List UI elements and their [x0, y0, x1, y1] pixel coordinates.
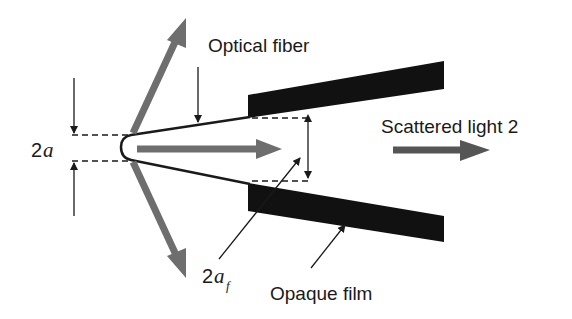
opaque-film-upper	[248, 61, 444, 118]
svg-text:2: 2	[31, 139, 42, 161]
opaque-film-lower	[248, 183, 444, 242]
leader-opaque-film	[311, 225, 345, 268]
svg-text:a: a	[214, 264, 225, 288]
svg-text:a: a	[43, 138, 54, 162]
scattered-light-2-arrow	[393, 140, 490, 161]
scatter-arrow-down	[133, 162, 186, 278]
svg-text:f: f	[226, 278, 232, 293]
transmitted-arrow	[137, 139, 282, 159]
scatter-arrow-up	[133, 18, 186, 133]
svg-text:2: 2	[202, 265, 213, 287]
label-optical-fiber: Optical fiber	[208, 35, 310, 56]
diagram-svg: Optical fiber Scattered light 2 Opaque f…	[0, 0, 572, 319]
label-opaque-film: Opaque film	[270, 283, 372, 304]
label-tip-diameter: 2 a	[31, 138, 54, 162]
label-aperture-diameter: 2 a f	[202, 264, 232, 293]
label-scattered-light: Scattered light 2	[381, 116, 518, 137]
diagram-canvas: Optical fiber Scattered light 2 Opaque f…	[0, 0, 572, 319]
